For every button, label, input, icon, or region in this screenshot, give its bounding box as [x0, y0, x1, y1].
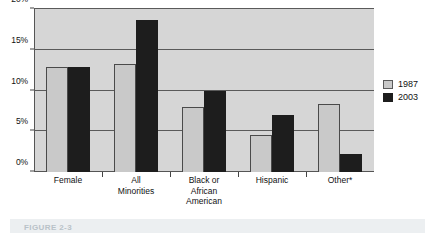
bar-2003	[340, 154, 362, 172]
bar-group	[306, 9, 374, 172]
y-axis-tick-label: 5%	[16, 116, 28, 126]
y-axis-tick-label: 0%	[16, 157, 28, 167]
bar-1987	[46, 67, 68, 172]
x-axis-category-label: AllMinorities	[102, 175, 170, 207]
chart-legend: 19872003	[383, 79, 418, 102]
x-axis-labels: FemaleAllMinoritiesBlack orAfricanAmeric…	[34, 175, 374, 207]
figure-bar-chart: 0%5%10%15%20% FemaleAllMinoritiesBlack o…	[0, 0, 435, 233]
bar-2003	[136, 20, 158, 172]
bar-1987	[182, 107, 204, 172]
bar-group	[102, 9, 170, 172]
y-axis-tick-label: 10%	[11, 76, 28, 86]
bar-2003	[272, 115, 294, 172]
x-axis-category-label: Female	[34, 175, 102, 207]
legend-swatch-icon	[383, 93, 393, 102]
legend-item-2003: 2003	[383, 92, 418, 102]
x-axis-label-line: American	[170, 196, 238, 207]
y-axis-tick-label: 15%	[11, 35, 28, 45]
legend-label: 2003	[398, 92, 418, 102]
bar-1987	[250, 135, 272, 172]
x-axis-label-line: Other*	[306, 175, 374, 186]
legend-label: 1987	[398, 79, 418, 89]
x-axis-label-line: Hispanic	[238, 175, 306, 186]
bar-2003	[204, 91, 226, 172]
bar-group	[238, 9, 306, 172]
y-axis-tick-label: 20%	[11, 0, 28, 4]
x-axis-category-label: Hispanic	[238, 175, 306, 207]
x-axis-label-line: Black or	[170, 175, 238, 186]
x-axis-label-line: African	[170, 186, 238, 197]
x-axis-label-line: Female	[34, 175, 102, 186]
x-axis-category-label: Other*	[306, 175, 374, 207]
legend-swatch-icon	[383, 80, 393, 89]
x-axis-category-label: Black orAfricanAmerican	[170, 175, 238, 207]
bar-1987	[318, 104, 340, 172]
bar-2003	[68, 67, 90, 172]
x-axis-separator	[170, 172, 171, 177]
x-axis-separator	[102, 172, 103, 177]
x-axis-label-line: All	[102, 175, 170, 186]
bar-group	[170, 9, 238, 172]
x-axis-separator	[306, 172, 307, 177]
x-axis-separator	[238, 172, 239, 177]
bar-1987	[114, 64, 136, 172]
bar-group	[34, 9, 102, 172]
chart-plot-area: 0%5%10%15%20%	[34, 9, 374, 172]
figure-caption: FIGURE 2-3	[24, 223, 72, 232]
x-axis-label-line: Minorities	[102, 186, 170, 197]
caption-strip: FIGURE 2-3	[10, 219, 425, 233]
legend-item-1987: 1987	[383, 79, 418, 89]
bar-groups	[34, 9, 374, 172]
